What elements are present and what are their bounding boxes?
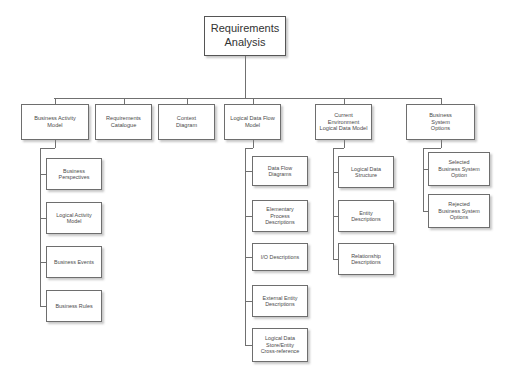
node-external-entity-descriptions: External Entity Descriptions: [252, 285, 308, 317]
node-logical-activity-model: Logical Activity Model: [46, 202, 102, 234]
node-business-events: Business Events: [46, 246, 102, 278]
node-requirements-analysis-label: Requirements Analysis: [209, 22, 281, 50]
node-relationship-descriptions: Relationship Descriptions: [338, 243, 394, 275]
node-elementary-process-descriptions-label: Elementary Process Descriptions: [263, 206, 297, 225]
node-external-entity-descriptions-label: External Entity Descriptions: [261, 295, 300, 308]
node-logical-activity-model-label: Logical Activity Model: [54, 212, 93, 225]
node-data-flow-diagrams: Data Flow Diagrams: [252, 156, 308, 186]
node-relationship-descriptions-label: Relationship Descriptions: [349, 253, 383, 266]
node-business-activity-model: Business Activity Model: [21, 104, 89, 140]
node-business-perspectives-label: Business Perspectives: [57, 168, 92, 181]
node-logical-data-store-entity-cross-reference-label: Logical Data Store/Entity Cross-referenc…: [259, 335, 302, 354]
node-requirements-catalogue: Requirements Catalogue: [95, 104, 152, 140]
node-business-system-options: Business System Options: [406, 104, 475, 140]
node-io-descriptions: I/O Descriptions: [252, 243, 308, 271]
node-io-descriptions-label: I/O Descriptions: [259, 254, 301, 260]
node-business-events-label: Business Events: [52, 259, 96, 265]
node-entity-descriptions: Entity Descriptions: [338, 200, 394, 232]
node-data-flow-diagrams-label: Data Flow Diagrams: [266, 165, 294, 178]
node-requirements-analysis: Requirements Analysis: [204, 16, 286, 56]
node-rejected-business-system-options: Rejected Business System Options: [428, 194, 490, 228]
node-requirements-catalogue-label: Requirements Catalogue: [104, 115, 143, 128]
node-business-perspectives: Business Perspectives: [46, 158, 102, 190]
node-business-rules-label: Business Rules: [53, 303, 94, 309]
node-selected-business-system-option-label: Selected Business System Option: [436, 159, 481, 178]
node-logical-data-structure: Logical Data Structure: [338, 156, 394, 188]
node-logical-data-store-entity-cross-reference: Logical Data Store/Entity Cross-referenc…: [252, 328, 308, 362]
node-business-rules: Business Rules: [46, 290, 102, 322]
node-logical-data-structure-label: Logical Data Structure: [349, 166, 383, 179]
node-current-environment-logical-data-model-label: Current Environment Logical Data Model: [318, 112, 370, 132]
requirements-analysis-diagram: Requirements AnalysisBusiness Activity M…: [0, 0, 505, 379]
node-business-activity-model-label: Business Activity Model: [32, 115, 78, 128]
node-context-diagram-label: Context Diagram: [174, 115, 199, 128]
node-logical-data-flow-model-label: Logical Data Flow Model: [228, 115, 276, 128]
node-business-system-options-label: Business System Options: [427, 112, 454, 132]
node-context-diagram: Context Diagram: [158, 104, 215, 140]
node-selected-business-system-option: Selected Business System Option: [428, 152, 490, 186]
node-rejected-business-system-options-label: Rejected Business System Options: [436, 201, 481, 220]
node-logical-data-flow-model: Logical Data Flow Model: [224, 104, 281, 140]
node-elementary-process-descriptions: Elementary Process Descriptions: [252, 200, 308, 232]
node-current-environment-logical-data-model: Current Environment Logical Data Model: [315, 104, 372, 140]
node-entity-descriptions-label: Entity Descriptions: [349, 210, 383, 223]
